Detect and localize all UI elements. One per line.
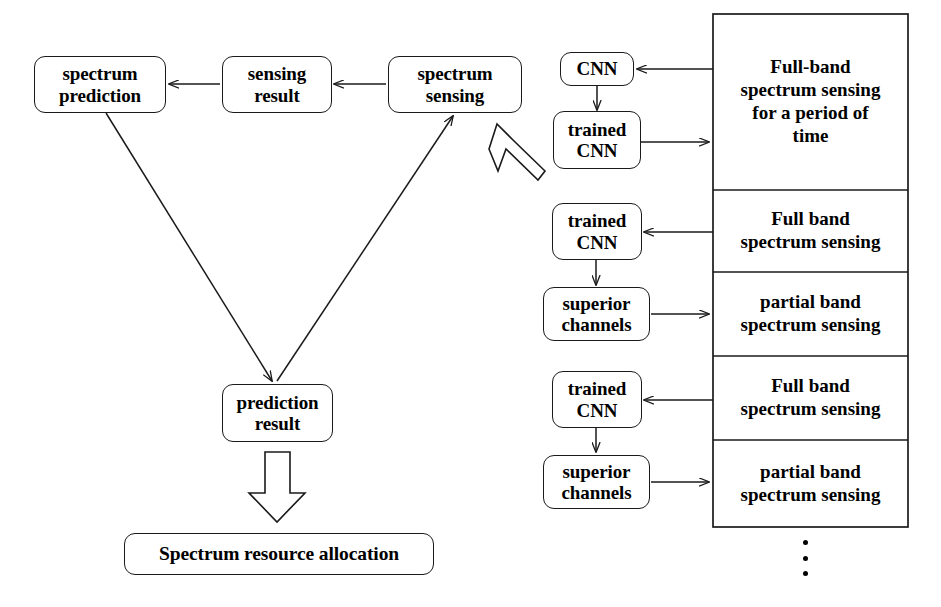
- edge-prediction-to-predresult: [106, 113, 272, 381]
- node-prediction-result[interactable]: prediction result: [222, 384, 333, 442]
- right-panel-frame: [713, 14, 908, 527]
- node-superior-channels-2[interactable]: superior channels: [543, 455, 650, 509]
- node-trained-cnn-3[interactable]: trained CNN: [552, 371, 642, 428]
- node-sensing-result[interactable]: sensing result: [222, 56, 332, 113]
- node-spectrum-sensing[interactable]: spectrum sensing: [388, 56, 522, 113]
- node-cnn-1[interactable]: CNN: [560, 52, 634, 86]
- vertical-ellipsis-icon: [800, 540, 810, 576]
- node-superior-channels-1[interactable]: superior channels: [543, 287, 650, 341]
- node-trained-cnn-1[interactable]: trained CNN: [553, 111, 641, 169]
- diagram-canvas: spectrum prediction sensing result spect…: [0, 0, 941, 607]
- block-arrow-predresult-to-allocation: [249, 452, 305, 522]
- edge-predresult-to-sensing: [277, 116, 453, 381]
- node-spectrum-resource-allocation[interactable]: Spectrum resource allocation: [124, 533, 434, 575]
- node-spectrum-prediction[interactable]: spectrum prediction: [34, 56, 166, 113]
- block-arrow-panel-to-sensing: [489, 124, 545, 180]
- node-trained-cnn-2[interactable]: trained CNN: [552, 203, 642, 260]
